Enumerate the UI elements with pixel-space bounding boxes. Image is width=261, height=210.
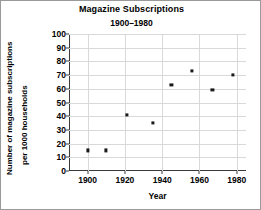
gridline-horizontal [69,48,246,49]
data-point [170,83,173,86]
gridline-vertical [162,34,163,171]
title-block: Magazine Subscriptions 1900–1980 [1,4,261,29]
x-tick-label: 1900 [78,175,97,185]
x-tick-mark [236,171,237,174]
y-tick-mark [66,116,69,117]
x-tick-label: 1960 [190,175,209,185]
y-tick-label: 30 [57,125,66,135]
x-axis-label: Year [69,191,246,201]
x-tick-mark [87,171,88,174]
x-tick-label: 1920 [115,175,134,185]
data-point [211,89,214,92]
x-tick-mark [162,171,163,174]
gridline-horizontal [69,75,246,76]
chart-figure: Magazine Subscriptions 1900–1980 Number … [0,0,261,210]
y-tick-mark [66,75,69,76]
y-tick-mark [66,102,69,103]
y-tick-label: 20 [57,139,66,149]
y-tick-label: 70 [57,70,66,80]
y-tick-mark [66,88,69,89]
gridline-horizontal [69,144,246,145]
y-tick-label: 80 [57,56,66,66]
y-tick-label: 100 [52,29,66,39]
gridline-horizontal [69,61,246,62]
y-tick-mark [66,34,69,35]
data-point [151,121,154,124]
x-tick-mark [124,171,125,174]
data-point [125,113,128,116]
data-point [190,69,193,72]
gridline-horizontal [69,89,246,90]
y-axis-label: Number of magazine subscriptions per 100… [3,29,37,179]
x-tick-label: 1980 [227,175,246,185]
gridline-vertical [237,34,238,171]
y-tick-label: 60 [57,84,66,94]
y-tick-mark [66,157,69,158]
data-point [86,149,89,152]
x-tick-mark [199,171,200,174]
y-tick-label: 50 [57,98,66,108]
gridline-horizontal [69,103,246,104]
y-tick-mark [66,143,69,144]
plot-area: 0102030405060708090100 19001920194019601… [69,34,246,171]
data-point [105,149,108,152]
gridline-horizontal [69,130,246,131]
data-point [231,74,234,77]
gridline-vertical [199,34,200,171]
y-tick-label: 10 [57,152,66,162]
x-tick-label: 1940 [153,175,172,185]
y-tick-mark [66,61,69,62]
y-axis-label-line-1: Number of magazine subscriptions [5,42,14,175]
y-tick-label: 40 [57,111,66,121]
gridline-horizontal [69,157,246,158]
y-tick-label: 90 [57,43,66,53]
y-tick-mark [66,129,69,130]
gridline-horizontal [69,116,246,117]
y-tick-mark [66,47,69,48]
chart-subtitle: 1900–1980 [1,18,261,29]
gridline-horizontal [69,34,246,35]
y-axis-label-line-2: per 1000 households [20,85,29,165]
gridline-vertical [125,34,126,171]
y-tick-label: 0 [61,166,66,176]
page-title: Magazine Subscriptions [1,4,261,15]
y-tick-mark [66,171,69,172]
